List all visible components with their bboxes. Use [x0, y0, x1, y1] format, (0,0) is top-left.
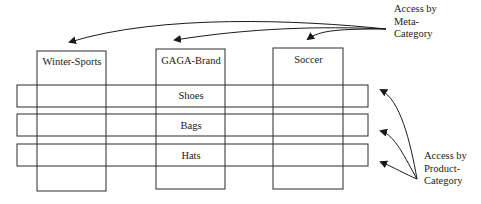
arrow-product-to-bags	[381, 131, 417, 179]
column-label-soccer: Soccer	[273, 54, 344, 66]
diagram-canvas: Winter-Sports GAGA-Brand Soccer Shoes Ba…	[0, 0, 481, 204]
column-box-soccer	[273, 48, 343, 189]
product-annotation-line-3: Category	[424, 175, 467, 188]
column-label-gaga-brand: GAGA-Brand	[156, 55, 226, 67]
arrow-meta-to-soccer	[308, 29, 386, 39]
arrow-product-to-hats	[381, 162, 417, 179]
column-box-gaga-brand	[156, 49, 225, 189]
column-label-winter-sports: Winter-Sports	[37, 56, 107, 68]
row-label-hats: Hats	[156, 150, 226, 162]
arrow-meta-to-winter-sports	[70, 21, 386, 42]
product-category-annotation: Access by Product- Category	[424, 150, 467, 188]
row-label-bags: Bags	[156, 120, 226, 132]
product-annotation-line-1: Access by	[424, 150, 467, 163]
meta-annotation-line-2: Meta-	[394, 16, 437, 29]
meta-annotation-line-1: Access by	[394, 3, 437, 16]
column-box-winter-sports	[37, 51, 106, 191]
meta-annotation-line-3: Category	[394, 28, 437, 41]
product-annotation-line-2: Product-	[424, 163, 467, 176]
meta-category-annotation: Access by Meta- Category	[394, 3, 437, 41]
row-label-shoes: Shoes	[156, 90, 226, 102]
arrow-product-to-shoes	[381, 90, 417, 179]
